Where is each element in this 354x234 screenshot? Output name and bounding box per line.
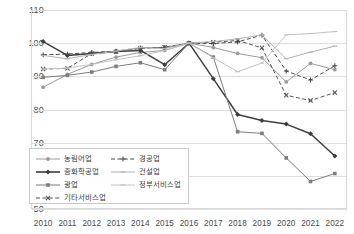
- data-point-marker: [259, 118, 264, 123]
- x-axis-tick-label: 2013: [107, 219, 126, 228]
- series-line: [43, 35, 335, 59]
- data-point-marker: [211, 46, 215, 50]
- data-point-marker: [284, 80, 288, 84]
- data-point-marker: [46, 183, 50, 187]
- x-axis-tick-label: 2012: [82, 219, 101, 228]
- x-axis-tick-label: 2017: [204, 219, 223, 228]
- legend-swatch-icon: [110, 167, 136, 177]
- legend-swatch-icon: [35, 154, 61, 164]
- legend-item[interactable]: 중화학공업: [35, 165, 110, 178]
- series-line: [43, 32, 335, 72]
- legend-item[interactable]: 경공업: [110, 152, 185, 165]
- data-point-marker: [309, 61, 313, 65]
- legend-item-label: 경공업: [139, 154, 160, 163]
- series-6: [41, 32, 337, 72]
- series-3: [41, 38, 337, 102]
- data-point-marker: [41, 76, 45, 80]
- x-axis-tick-label: 2016: [180, 219, 199, 228]
- data-point-marker: [260, 56, 264, 60]
- legend-item[interactable]: 정부서비스업: [110, 178, 185, 191]
- legend-swatch-icon: [35, 167, 61, 177]
- data-point-marker: [284, 156, 288, 160]
- series-line: [43, 42, 335, 156]
- data-point-marker: [114, 65, 118, 69]
- data-point-marker: [163, 68, 167, 72]
- legend-item[interactable]: 건설업: [110, 165, 185, 178]
- legend-item-label: 기타서비스업: [64, 193, 106, 202]
- data-point-marker: [235, 39, 240, 44]
- legend-item[interactable]: 기타서비스업: [35, 191, 184, 204]
- x-axis-tick-label: 2018: [228, 219, 247, 228]
- x-axis-tick-label: 2011: [58, 219, 76, 228]
- data-point-marker: [236, 52, 240, 56]
- data-point-marker: [236, 130, 240, 134]
- data-point-marker: [308, 78, 313, 83]
- data-point-marker: [332, 63, 337, 68]
- series-line: [43, 41, 335, 101]
- data-point-marker: [46, 169, 51, 174]
- legend-item[interactable]: 농림어업: [35, 152, 110, 165]
- line-chart: 1101009080706050 20102011201220132014201…: [0, 0, 354, 234]
- legend-swatch-icon: [35, 180, 61, 190]
- data-point-marker: [66, 74, 70, 78]
- data-point-marker: [284, 69, 289, 74]
- data-point-marker: [284, 93, 288, 97]
- legend-swatch-icon: [110, 154, 136, 164]
- legend-item-label: 농림어업: [64, 154, 92, 163]
- data-point-marker: [139, 61, 143, 65]
- data-point-marker: [284, 122, 289, 127]
- legend-swatch-icon: [35, 193, 61, 203]
- data-point-marker: [120, 156, 125, 161]
- data-point-marker: [333, 68, 337, 72]
- legend-item[interactable]: 광업: [35, 178, 110, 191]
- chart-legend: 농림어업경공업중화학공업건설업광업정부서비스업기타서비스업: [29, 148, 189, 204]
- data-point-marker: [90, 70, 94, 74]
- x-axis-tick-label: 2022: [326, 219, 345, 228]
- legend-item-label: 건설업: [139, 167, 160, 176]
- data-point-marker: [333, 172, 337, 176]
- x-axis-tick-label: 2015: [155, 219, 174, 228]
- legend-item-label: 정부서비스업: [139, 180, 181, 189]
- data-point-marker: [260, 132, 264, 136]
- x-axis-tick-label: 2021: [301, 219, 320, 228]
- legend-swatch-icon: [110, 180, 136, 190]
- x-axis-tick-label: 2019: [253, 219, 272, 228]
- data-point-marker: [309, 180, 313, 184]
- data-point-marker: [114, 55, 118, 59]
- data-point-marker: [41, 52, 46, 57]
- data-point-marker: [46, 157, 50, 161]
- x-axis-tick-label: 2020: [277, 219, 296, 228]
- data-point-marker: [41, 85, 45, 89]
- legend-item-label: 광업: [64, 180, 78, 189]
- data-point-marker: [260, 46, 264, 50]
- x-axis-tick-label: 2010: [34, 219, 53, 228]
- series-5: [41, 35, 337, 59]
- legend-item-label: 중화학공업: [64, 167, 99, 176]
- x-axis-tick-label: 2014: [131, 219, 150, 228]
